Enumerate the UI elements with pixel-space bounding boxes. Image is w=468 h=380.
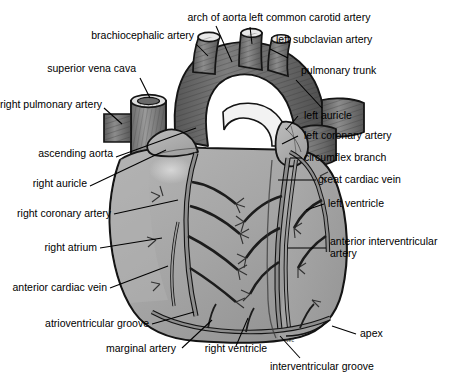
label-right-auricle: right auricle (0, 178, 87, 190)
label-circumflex-branch: circumflex branch (304, 152, 386, 164)
label-great-cardiac-vein: great cardiac vein (318, 174, 401, 186)
label-ascending-aorta: ascending aorta (0, 148, 113, 160)
label-right-coronary-artery: right coronary artery (0, 208, 111, 220)
label-atrioventricular-groove: atrioventricular groove (0, 318, 149, 330)
label-apex: apex (360, 328, 383, 340)
label-superior-vena-cava: superior vena cava (0, 63, 136, 75)
label-left-auricle: left auricle (304, 110, 352, 122)
leader-apex (332, 326, 356, 334)
label-marginal-artery: marginal artery (100, 343, 182, 355)
label-right-atrium: right atrium (0, 242, 97, 254)
label-left-ventricle: left ventricle (328, 198, 384, 210)
label-right-ventricle: right ventricle (191, 343, 281, 355)
label-pulmonary-trunk: pulmonary trunk (301, 65, 376, 77)
heart-anatomy-figure: vec arch of ao (0, 0, 468, 380)
label-left-coronary-artery: left coronary artery (304, 130, 392, 142)
label-anterior-cardiac-vein: anterior cardiac vein (0, 282, 107, 294)
label-right-pulmonary-artery: right pulmonary artery (0, 99, 101, 111)
label-interventricular-groove: interventricular groove (270, 361, 374, 373)
label-left-subclavian-artery: left subclavian artery (276, 34, 372, 46)
label-arch-of-aorta: arch of aorta (176, 12, 258, 24)
artist-signature: vec (286, 337, 294, 343)
right-pulmonary-artery-vessel (104, 114, 131, 142)
brachiocephalic-artery-vessel (193, 32, 220, 74)
label-left-common-carotid-artery: left common carotid artery (249, 12, 370, 24)
label-anterior-interventricular-artery: anterior interventricular artery (330, 236, 466, 259)
label-brachiocephalic-artery: brachiocephalic artery (0, 30, 194, 42)
